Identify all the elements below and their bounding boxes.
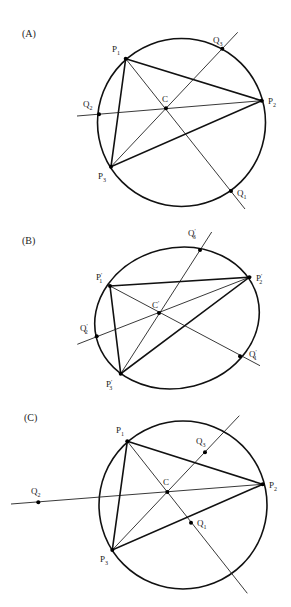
point-p3 (109, 165, 113, 169)
point-q3 (203, 450, 207, 454)
point-c (164, 106, 168, 110)
point-label-p1: P1 (112, 44, 120, 56)
point-label-q1: Q1 (197, 518, 207, 530)
point-p3 (119, 372, 123, 376)
triangle (111, 59, 262, 167)
point-label-p1: P1 (116, 425, 124, 437)
point-p1 (125, 439, 129, 443)
point-label-p3: P3 (98, 171, 106, 183)
circumcircle (98, 39, 266, 207)
point-label-q1: Q′1 (249, 349, 258, 361)
circumcircle (99, 421, 267, 589)
point-q3 (220, 47, 224, 51)
panel-b: (B)P′1P′2P′3C′Q′1Q′2Q′3 (22, 228, 274, 406)
point-label-p2: P2 (268, 96, 276, 108)
point-label-q1: Q1 (237, 188, 247, 200)
cevian-diagram: (A)P1P2P3CQ1Q2Q3(B)P′1P′2P′3C′Q′1Q′2Q′3(… (0, 0, 291, 607)
point-p2 (247, 275, 251, 279)
point-q3 (198, 248, 202, 252)
triangle (110, 277, 249, 373)
triangle (112, 441, 262, 550)
panel-c: (C)P1P2P3CQ1Q2Q3 (11, 412, 277, 593)
point-p1 (108, 284, 112, 288)
panel-a: (A)P1P2P3CQ1Q2Q3 (22, 28, 276, 209)
point-p1 (124, 57, 128, 61)
point-c (165, 490, 169, 494)
point-c (157, 311, 161, 315)
panel-label: (B) (22, 235, 35, 247)
cevian-line-3 (112, 416, 239, 550)
point-q2 (97, 112, 101, 116)
point-label-p2: P2 (269, 480, 277, 492)
point-label-p1: P′1 (96, 272, 103, 284)
point-q1 (229, 189, 233, 193)
point-label-q2: Q2 (83, 99, 93, 111)
point-label-q2: Q′2 (80, 323, 89, 335)
point-q2 (36, 500, 40, 504)
point-q1 (238, 354, 242, 358)
panel-label: (C) (24, 412, 37, 424)
point-p2 (261, 482, 265, 486)
point-p3 (110, 548, 114, 552)
cevian-line-3 (111, 32, 238, 166)
point-q2 (95, 334, 99, 338)
point-label-c: C′ (152, 300, 160, 310)
panel-label: (A) (22, 28, 36, 40)
point-label-p3: P′3 (106, 379, 113, 391)
point-label-p3: P3 (100, 554, 108, 566)
point-label-p2: P′2 (256, 273, 263, 285)
point-p2 (260, 99, 264, 103)
point-q1 (189, 521, 193, 525)
point-label-q2: Q2 (31, 486, 41, 498)
cevian-line-3 (121, 232, 212, 374)
point-label-q3: Q3 (196, 436, 206, 448)
point-label-c: C (162, 94, 168, 104)
cevian-line-2 (77, 277, 249, 344)
point-label-c: C (163, 477, 169, 487)
point-label-q3: Q′3 (188, 228, 197, 240)
